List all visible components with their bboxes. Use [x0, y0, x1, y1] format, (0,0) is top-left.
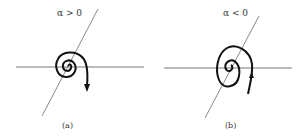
panel-a: α > 0 (a) — [0, 0, 153, 136]
spiral-curve — [56, 52, 87, 86]
arrow-down-icon — [84, 84, 90, 92]
caption-label: (b) — [225, 121, 236, 130]
condition-label: α < 0 — [223, 8, 248, 18]
spiral-diagram-b — [153, 0, 306, 136]
panel-b: α < 0 (b) — [153, 0, 306, 136]
condition-label: α > 0 — [57, 8, 82, 18]
oblique-axis — [42, 9, 98, 116]
spiral-diagram-a — [0, 0, 153, 136]
arrow-up-icon — [249, 72, 254, 78]
caption-label: (a) — [62, 121, 73, 130]
spiral-curve — [217, 46, 252, 94]
